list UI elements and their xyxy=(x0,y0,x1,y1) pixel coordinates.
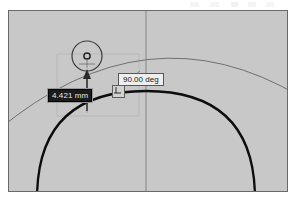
screenshot-canvas: 90.00 deg 4.421 mm xyxy=(0,0,296,202)
center-crosshair-icon xyxy=(79,60,95,68)
linear-dimension-label[interactable]: 4.421 mm xyxy=(48,89,92,102)
perpendicular-constraint-icon[interactable] xyxy=(112,85,125,98)
perpendicular-symbol xyxy=(113,86,122,95)
cad-sketch-viewport[interactable]: 90.00 deg 4.421 mm xyxy=(8,10,288,192)
scan-artifact xyxy=(190,2,290,7)
